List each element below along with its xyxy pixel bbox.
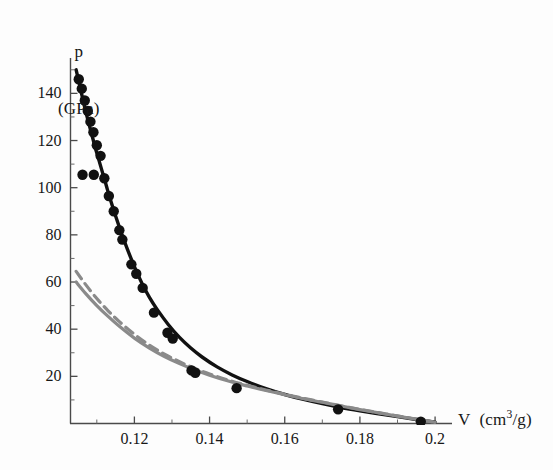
y-tick-label: 20 bbox=[46, 367, 62, 385]
data-point bbox=[131, 269, 141, 279]
data-point bbox=[137, 283, 147, 293]
y-axis-title: p (GPa) bbox=[58, 4, 100, 156]
x-tick-label: 0.12 bbox=[120, 430, 148, 448]
y-tick-label: 100 bbox=[38, 179, 62, 197]
x-axis-title-symbol: V bbox=[458, 410, 470, 429]
y-axis-title-line-2: (GPa) bbox=[58, 99, 100, 118]
x-tick-label: 0.14 bbox=[196, 430, 224, 448]
data-point bbox=[149, 307, 159, 317]
data-point bbox=[333, 404, 343, 414]
x-tick-label: 0.18 bbox=[346, 430, 374, 448]
series-line-1 bbox=[76, 271, 435, 422]
data-point bbox=[117, 234, 127, 244]
x-axis-units-post: /g) bbox=[512, 410, 531, 429]
x-tick-label: 0.16 bbox=[271, 430, 299, 448]
data-point bbox=[190, 368, 200, 378]
data-point bbox=[99, 173, 109, 183]
data-point bbox=[168, 333, 178, 343]
y-tick-label: 140 bbox=[38, 84, 62, 102]
series-layer bbox=[76, 70, 435, 423]
x-tick-label: 0.2 bbox=[425, 430, 445, 448]
y-tick-label: 60 bbox=[46, 273, 62, 291]
series-line-0 bbox=[76, 70, 435, 422]
data-point bbox=[77, 170, 87, 180]
x-axis-units-pre: (cm bbox=[479, 410, 506, 429]
series-line-2 bbox=[76, 282, 435, 422]
x-axis-title: V (cm3/g) bbox=[458, 410, 532, 430]
figure-container: p (GPa) V (cm3/g) 204060801001201400.120… bbox=[0, 0, 553, 470]
data-point bbox=[416, 416, 426, 426]
data-point bbox=[126, 259, 136, 269]
data-point bbox=[109, 206, 119, 216]
data-point bbox=[114, 225, 124, 235]
data-point bbox=[231, 383, 241, 393]
y-axis-title-line-1: p bbox=[58, 42, 100, 61]
y-tick-label: 80 bbox=[46, 226, 62, 244]
y-tick-label: 40 bbox=[46, 320, 62, 338]
y-tick-label: 120 bbox=[38, 132, 62, 150]
data-point bbox=[104, 191, 114, 201]
data-point bbox=[89, 170, 99, 180]
